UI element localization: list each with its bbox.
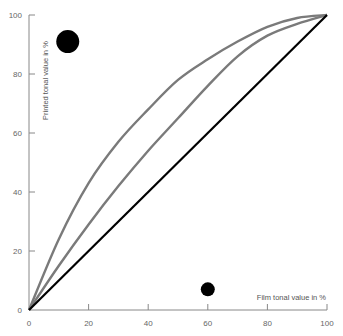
series-line-2	[29, 15, 327, 310]
x-tick-label: 80	[263, 319, 272, 328]
tonal-value-chart: 020406080100020406080100 Printed tonal v…	[0, 0, 343, 336]
y-tick-label: 60	[13, 129, 22, 138]
x-tick-label: 100	[320, 319, 334, 328]
x-tick-label: 40	[144, 319, 153, 328]
x-axis-title: Film tonal value in %	[257, 293, 327, 302]
x-tick-label: 0	[27, 319, 32, 328]
small-dot-marker	[201, 282, 215, 296]
y-tick-label: 40	[13, 188, 22, 197]
y-tick-label: 80	[13, 70, 22, 79]
x-tick-label: 20	[84, 319, 93, 328]
x-tick-label: 60	[203, 319, 212, 328]
y-tick-label: 100	[9, 11, 23, 20]
y-axis-title: Printed tonal value in %	[41, 41, 50, 120]
y-tick-label: 20	[13, 247, 22, 256]
y-tick-label: 0	[18, 306, 23, 315]
large-dot-marker	[56, 30, 79, 53]
series-lines	[29, 15, 327, 310]
